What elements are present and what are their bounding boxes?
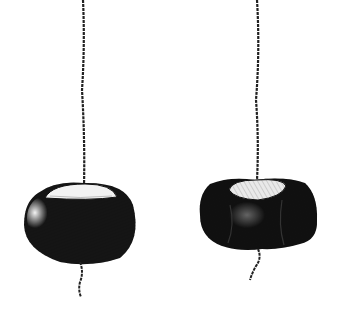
left-string-top (82, 0, 84, 186)
right-conker (200, 0, 317, 280)
right-string-bottom (250, 249, 260, 280)
right-string-top (256, 0, 258, 180)
illustration (0, 0, 337, 312)
left-conker (24, 0, 136, 297)
left-string-bottom (79, 262, 82, 297)
conkers-illustration (0, 0, 337, 312)
